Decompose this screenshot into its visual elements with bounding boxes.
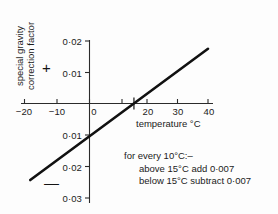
specific-gravity-correction-chart: special gravity correction factor temper… — [0, 0, 278, 214]
x-tick-label-20: 20 — [143, 106, 154, 117]
x-tick-label-30: 30 — [173, 106, 184, 117]
x-tick-label-40: 40 — [204, 106, 215, 117]
y-tick-label-neg-0p01: 0·01 — [52, 130, 82, 141]
x-axis-title: temperature °C — [136, 118, 201, 129]
y-tick-label-neg-0p03: 0·03 — [52, 193, 82, 204]
note-line-1: for every 10°C:– — [124, 150, 251, 163]
correction-rule-note: for every 10°C:– above 15°C add 0·007 be… — [124, 150, 251, 188]
x-tick-marks — [25, 99, 209, 104]
negative-sign-marker: — — [44, 175, 59, 190]
note-line-2: above 15°C add 0·007 — [124, 163, 251, 176]
x-tick-label--20: −20 — [16, 106, 32, 117]
x-tick-label-0: 0 — [91, 106, 96, 117]
y-axis-title-line2: correction factor — [25, 8, 36, 104]
x-tick-label--10: −10 — [49, 106, 65, 117]
note-line-3: below 15°C subtract 0·007 — [124, 175, 251, 188]
y-axis-title-line1: special gravity — [14, 8, 25, 104]
y-tick-label-0p01: 0·01 — [52, 68, 82, 79]
positive-sign-marker: + — [42, 60, 51, 75]
y-tick-label-neg-0p02: 0·02 — [52, 162, 82, 173]
y-axis-title: special gravity correction factor — [14, 8, 38, 104]
y-tick-marks — [85, 41, 90, 198]
y-tick-label-0p02: 0·02 — [52, 36, 82, 47]
